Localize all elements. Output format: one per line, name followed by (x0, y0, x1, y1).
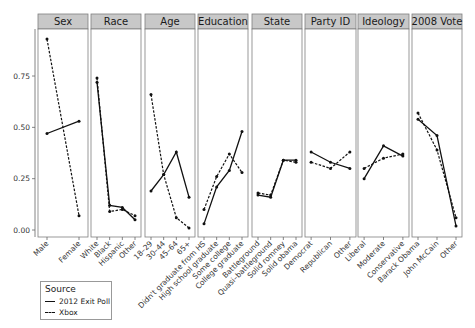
data-point (382, 144, 385, 147)
data-point (78, 214, 81, 217)
panel-plot-area (358, 29, 409, 237)
data-point (134, 214, 137, 217)
data-point (215, 175, 218, 178)
y-tick-label: 0.75 (13, 72, 30, 81)
data-point (46, 132, 49, 135)
data-point (363, 177, 366, 180)
data-point (96, 77, 99, 80)
y-tick-label: 0.00 (13, 226, 30, 235)
panel-title: Race (104, 16, 129, 27)
data-point (150, 93, 153, 96)
y-axis: 0.000.250.500.75 (13, 29, 35, 237)
y-tick-label: 0.25 (13, 174, 30, 183)
data-point (329, 161, 332, 164)
dashed-line-swatch-icon (45, 312, 55, 313)
solid-line-swatch-icon (45, 301, 55, 302)
data-point (295, 161, 298, 164)
legend: Source 2012 Exit Poll Xbox (40, 281, 112, 320)
data-point (382, 157, 385, 160)
panel-plot-area (145, 29, 195, 237)
data-point (134, 218, 137, 221)
data-point (175, 216, 178, 219)
data-point (455, 216, 458, 219)
data-point (401, 153, 404, 156)
panel-title: State (264, 16, 290, 27)
panel-plot-area (198, 29, 248, 237)
x-tick-label: Female (57, 239, 83, 265)
faceted-line-chart: 0.000.250.500.75SexMaleFemaleRaceWhiteBl… (0, 0, 475, 328)
data-point (417, 118, 420, 121)
panel-title: 2008 Vote (412, 16, 463, 27)
data-point (121, 208, 124, 211)
panel-plot-area (412, 29, 462, 237)
panel-plot-area (305, 29, 356, 237)
data-point (241, 130, 244, 133)
panel-title: Education (198, 16, 248, 27)
data-point (436, 134, 439, 137)
data-point (175, 150, 178, 153)
data-point (329, 167, 332, 170)
data-point (257, 192, 260, 195)
data-point (203, 222, 206, 225)
panel-title: Party ID (311, 16, 351, 27)
panel-plot-area (38, 29, 88, 237)
data-point (363, 167, 366, 170)
data-point (269, 194, 272, 197)
panel-title: Age (160, 16, 179, 27)
data-point (436, 148, 439, 151)
y-tick-label: 0.50 (13, 123, 30, 132)
legend-label-xbox: Xbox (59, 308, 78, 317)
data-point (348, 150, 351, 153)
data-point (150, 189, 153, 192)
x-tick-label: Male (31, 239, 50, 258)
legend-item-exit-poll: 2012 Exit Poll (45, 297, 110, 306)
data-point (228, 169, 231, 172)
data-point (203, 208, 206, 211)
data-point (162, 173, 165, 176)
data-point (215, 185, 218, 188)
data-point (310, 161, 313, 164)
data-point (417, 111, 420, 114)
data-point (348, 167, 351, 170)
data-point (46, 38, 49, 41)
data-point (108, 210, 111, 213)
data-point (282, 159, 285, 162)
panel-sex: SexMaleFemale (31, 14, 88, 265)
data-point (188, 196, 191, 199)
data-point (241, 171, 244, 174)
data-point (455, 224, 458, 227)
panel-plot-area (252, 29, 302, 237)
panel-title: Ideology (362, 16, 405, 27)
data-point (78, 120, 81, 123)
legend-title: Source (45, 284, 76, 294)
data-point (188, 226, 191, 229)
x-tick-label: Other (438, 238, 460, 260)
data-point (228, 153, 231, 156)
legend-item-xbox: Xbox (45, 308, 78, 317)
panel-title: Sex (54, 16, 72, 27)
legend-label-exit-poll: 2012 Exit Poll (59, 297, 110, 306)
data-point (310, 150, 313, 153)
